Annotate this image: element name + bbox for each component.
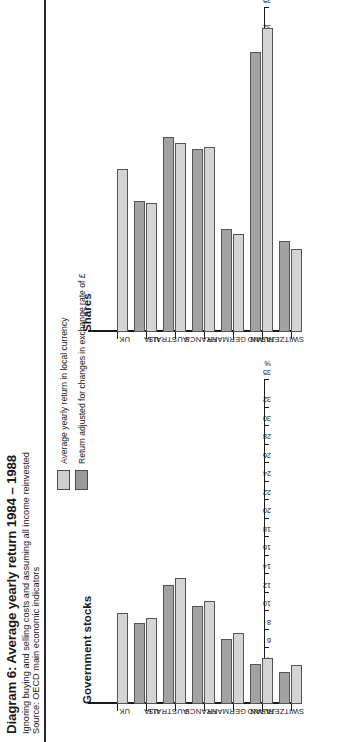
bar-local-france	[204, 147, 215, 332]
header-divider	[44, 0, 46, 742]
category-label-australia: AUSTRALIA	[144, 335, 188, 344]
chart-title-shares: Shares	[80, 293, 93, 332]
bar-local-japan	[262, 658, 273, 704]
bar-group-japan: JAPAN	[249, 8, 275, 332]
legend-label-local: Average yearly return in local currency	[59, 318, 69, 464]
bar-adjusted-switzerland	[279, 241, 290, 332]
bar-local-france	[204, 601, 215, 704]
bar-group-us: US	[133, 380, 159, 704]
category-label-germany: GERMANY	[206, 707, 246, 716]
bar-group-japan: JAPAN	[249, 380, 275, 704]
bar-group-uk: UK	[104, 8, 130, 332]
bar-adjusted-germany	[221, 229, 232, 332]
category-label-australia: AUSTRALIA	[144, 707, 188, 716]
page-subtitle: Ignoring buying and selling costs and as…	[21, 452, 31, 734]
bar-local-australia	[175, 578, 186, 704]
bar-local-japan	[262, 28, 273, 332]
bar-group-germany: GERMANY	[220, 8, 246, 332]
category-label-switzerland: SWITZERLAND	[247, 707, 304, 716]
bar-local-germany	[233, 633, 244, 704]
page-source: Source: OECD main economic indicators	[31, 567, 41, 734]
legend-swatch-adjusted	[75, 470, 88, 490]
bar-group-germany: GERMANY	[220, 380, 246, 704]
bar-group-france: FRANCE	[191, 380, 217, 704]
category-tick	[117, 332, 118, 339]
bar-group-uk: UK	[104, 380, 130, 704]
category-label-switzerland: SWITZERLAND	[247, 335, 304, 344]
bar-group-switzerland: SWITZERLAND	[278, 380, 304, 704]
category-label-uk: UK	[119, 707, 130, 716]
category-label-germany: GERMANY	[206, 335, 246, 344]
bar-local-australia	[175, 143, 186, 332]
bar-adjusted-japan	[250, 664, 261, 704]
bar-group-australia: AUSTRALIA	[162, 8, 188, 332]
category-label-uk: UK	[119, 335, 130, 344]
bar-adjusted-france	[192, 606, 203, 704]
legend-item-local: Average yearly return in local currency	[56, 273, 71, 490]
bar-adjusted-australia	[163, 137, 174, 332]
bar-adjusted-germany	[221, 639, 232, 704]
bar-local-us	[146, 618, 157, 704]
chart-title-government-stocks: Government stocks	[80, 596, 93, 704]
legend-swatch-local	[57, 470, 70, 490]
bar-group-us: US	[133, 8, 159, 332]
bar-group-france: FRANCE	[191, 8, 217, 332]
plot-area-shares: 0246810121416182022242628303235% UKUSAUS…	[96, 8, 298, 332]
bar-local-switzerland	[291, 665, 302, 704]
bar-group-australia: AUSTRALIA	[162, 380, 188, 704]
bar-adjusted-australia	[163, 585, 174, 704]
plot-area-government-stocks: 0246810121416182022242628303235% UKUSAUS…	[96, 380, 298, 704]
bar-adjusted-us	[134, 623, 145, 704]
axis-unit-label: %	[264, 359, 271, 368]
page-title: Diagram 6: Average yearly return 1984 – …	[4, 455, 19, 734]
chart-shares: Shares 0246810121416182022242628303235% …	[96, 8, 332, 360]
bar-adjusted-france	[192, 149, 203, 332]
bar-adjusted-switzerland	[279, 672, 290, 704]
bar-local-germany	[233, 234, 244, 332]
bar-adjusted-us	[134, 201, 145, 332]
axis-tick-label: 35	[263, 368, 271, 377]
bar-adjusted-japan	[250, 52, 261, 332]
chart-government-stocks: Government stocks 0246810121416182022242…	[96, 380, 332, 732]
bar-local-uk	[117, 613, 128, 704]
axis-tick-label: 35	[263, 0, 271, 5]
bar-local-uk	[117, 169, 128, 332]
bar-group-switzerland: SWITZERLAND	[278, 8, 304, 332]
bar-local-us	[146, 203, 157, 332]
diagram-canvas: Diagram 6: Average yearly return 1984 – …	[0, 0, 346, 742]
diagram-page: Diagram 6: Average yearly return 1984 – …	[0, 0, 346, 742]
bar-local-switzerland	[291, 249, 302, 332]
category-tick	[117, 704, 118, 711]
